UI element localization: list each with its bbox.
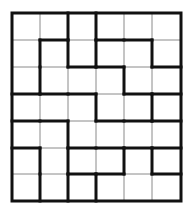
grid-cell[interactable] bbox=[68, 148, 96, 174]
grid-cell[interactable] bbox=[12, 67, 40, 94]
grid-cell[interactable] bbox=[68, 13, 96, 40]
grid-cell[interactable] bbox=[124, 121, 152, 148]
grid-cell[interactable] bbox=[96, 148, 124, 174]
grid-cell[interactable] bbox=[68, 174, 96, 201]
grid-cell[interactable] bbox=[152, 174, 181, 201]
grid-cell[interactable] bbox=[12, 174, 40, 201]
grid-cell[interactable] bbox=[12, 13, 40, 40]
puzzle-grid bbox=[0, 0, 193, 209]
grid-cell[interactable] bbox=[124, 174, 152, 201]
grid-cell[interactable] bbox=[152, 13, 181, 40]
grid-cell[interactable] bbox=[124, 148, 152, 174]
grid-cell[interactable] bbox=[12, 121, 40, 148]
grid-cell[interactable] bbox=[68, 94, 96, 121]
grid-cell[interactable] bbox=[68, 121, 96, 148]
grid-cell[interactable] bbox=[152, 40, 181, 67]
grid-cell[interactable] bbox=[40, 174, 68, 201]
grid-cell[interactable] bbox=[40, 94, 68, 121]
grid-cell[interactable] bbox=[96, 67, 124, 94]
grid-cell[interactable] bbox=[12, 148, 40, 174]
grid-cell[interactable] bbox=[152, 148, 181, 174]
grid-cell[interactable] bbox=[40, 67, 68, 94]
grid-cell[interactable] bbox=[40, 40, 68, 67]
grid-cell[interactable] bbox=[40, 121, 68, 148]
grid-cell[interactable] bbox=[12, 94, 40, 121]
grid-cell[interactable] bbox=[96, 94, 124, 121]
grid-cell[interactable] bbox=[96, 40, 124, 67]
grid-cell[interactable] bbox=[124, 40, 152, 67]
grid-cell[interactable] bbox=[152, 67, 181, 94]
grid-cell[interactable] bbox=[96, 13, 124, 40]
grid-cell[interactable] bbox=[12, 40, 40, 67]
grid-cell[interactable] bbox=[152, 121, 181, 148]
grid-cell[interactable] bbox=[124, 13, 152, 40]
grid-cell[interactable] bbox=[96, 174, 124, 201]
grid-cell[interactable] bbox=[152, 94, 181, 121]
grid-cell[interactable] bbox=[124, 94, 152, 121]
grid-canvas bbox=[0, 0, 193, 209]
grid-cell[interactable] bbox=[96, 121, 124, 148]
grid-cell[interactable] bbox=[68, 67, 96, 94]
grid-cell[interactable] bbox=[40, 13, 68, 40]
grid-cell[interactable] bbox=[124, 67, 152, 94]
grid-cell[interactable] bbox=[68, 40, 96, 67]
grid-cell[interactable] bbox=[40, 148, 68, 174]
